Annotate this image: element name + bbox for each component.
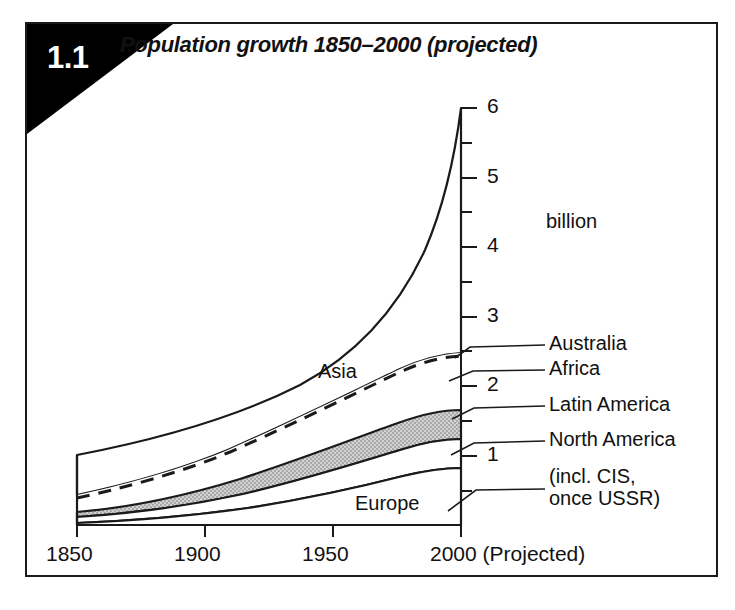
series-label-europe: Europe [355,492,420,515]
y-axis-label-2: 2 [487,372,499,396]
y-axis-label-4: 4 [487,233,499,257]
callout-label-north-america: North America [549,429,676,451]
callout-label-europe-note-line1: (incl. CIS, [549,466,636,488]
leader-line-latin-america [452,406,545,419]
callout-label-australia: Australia [549,333,627,355]
population-area-chart [0,0,735,610]
x-axis-label-1850: 1850 [46,542,93,566]
y-axis-label-5: 5 [487,164,499,188]
y-axis-label-1: 1 [487,442,499,466]
y-axis-label-6: 6 [487,94,499,118]
x-axis-label-1900: 1900 [174,542,221,566]
callout-label-latin-america: Latin America [549,394,670,416]
y-axis-unit-label: billion [546,210,597,233]
x-axis-label-2000: 2000 (Projected) [430,542,585,566]
leader-line-europe-note [448,489,545,511]
y-axis-label-3: 3 [487,303,499,327]
series-label-asia: Asia [318,360,357,383]
callout-label-africa: Africa [549,358,600,380]
x-axis-label-1950: 1950 [302,542,349,566]
callout-label-europe-note-line2: once USSR) [549,488,660,510]
figure-root: 1.1 Population growth 1850–2000 (project… [0,0,735,610]
